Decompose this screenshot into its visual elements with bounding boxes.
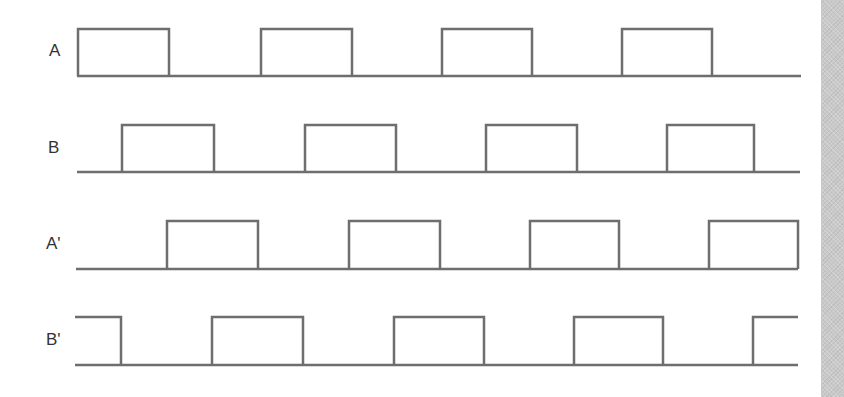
pulse (574, 317, 663, 365)
pulse (122, 125, 214, 172)
page-edge-bar (821, 0, 844, 397)
pulse (394, 317, 484, 365)
signal-label-b: B (48, 139, 59, 156)
pulse (442, 29, 532, 76)
waveform-a (77, 29, 801, 76)
pulse (78, 29, 169, 76)
waveform-b (77, 125, 800, 172)
pulse (486, 125, 577, 172)
pulse (212, 317, 303, 365)
pulse (75, 317, 121, 365)
pulse (305, 125, 396, 172)
pulse (622, 29, 712, 76)
signal-label-a: A (49, 42, 60, 59)
pulse (349, 221, 440, 269)
signal-label-b-prime: B' (46, 331, 61, 348)
pulse (753, 317, 798, 365)
pulse (530, 221, 619, 269)
signal-label-a-prime: A' (46, 235, 61, 252)
waveform-canvas (0, 0, 844, 397)
pulse (709, 221, 798, 269)
waveform-a-prime (76, 221, 798, 269)
pulse (167, 221, 258, 269)
pulse (261, 29, 352, 76)
pulse (667, 125, 754, 172)
waveform-b-prime (75, 317, 798, 365)
